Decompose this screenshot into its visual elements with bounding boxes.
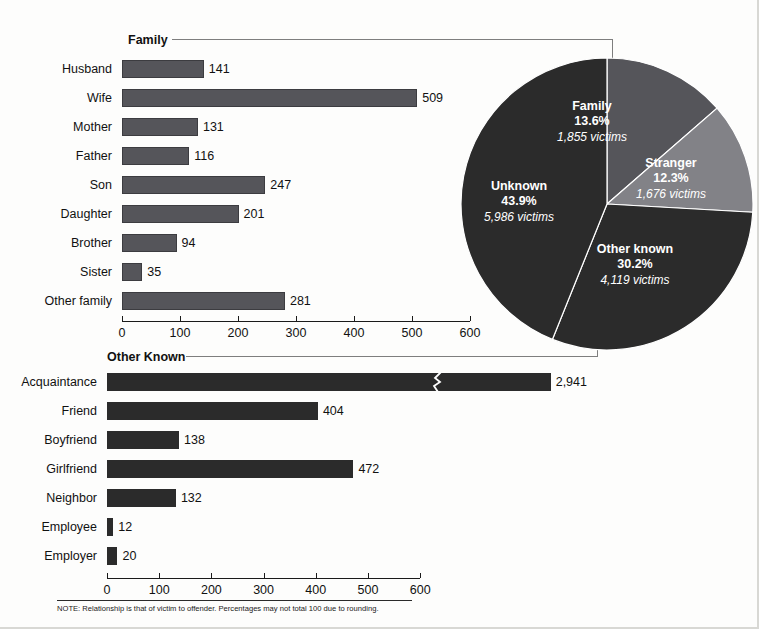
x-axis-line [122,321,470,322]
x-axis-tick-label: 400 [334,326,374,340]
bar [107,547,117,565]
pie-label-family-percent: 13.6% [537,114,647,129]
bar-row-label: Employee [0,514,97,540]
footer-rule [57,600,412,601]
bar [122,234,177,252]
x-axis-tick-label: 200 [218,326,258,340]
family-connector-horizontal [172,39,612,40]
bar [122,292,285,310]
other-known-bar-chart: Acquaintance2,941Friend404Boyfriend138Gi… [0,365,500,580]
bar-value-label: 404 [323,398,344,424]
family-bar-chart: Husband141Wife509Mother131Father116Son24… [0,50,500,330]
bar [122,60,204,78]
pie-label-other-known-name: Other known [570,242,700,257]
pie-label-other-known-percent: 30.2% [570,257,700,272]
other-known-panel-title: Other Known [107,350,185,364]
bar [107,373,551,391]
pie-label-stranger-name: Stranger [608,156,734,171]
x-axis-tick-label: 100 [139,583,179,597]
bar-row: Employee12 [0,514,759,540]
bar-row-label: Girlfriend [0,456,97,482]
x-axis-tick-label: 400 [296,583,336,597]
bar-row-label: Neighbor [0,485,97,511]
bar-row: Boyfriend138 [0,427,759,453]
x-axis-tick [368,573,369,578]
pie-label-stranger-percent: 12.3% [608,171,734,186]
x-axis-tick-label: 100 [160,326,200,340]
x-axis-tick-label: 0 [102,326,142,340]
bar [107,518,113,536]
x-axis-tick-label: 500 [392,326,432,340]
other-known-connector-horizontal [186,356,597,357]
bar-row-label: Acquaintance [0,369,97,395]
x-axis-tick [420,573,421,578]
bar-row: Neighbor132 [0,485,759,511]
x-axis-tick-label: 300 [276,326,316,340]
bar-value-label: 141 [209,56,230,82]
bar-row-label: Father [0,143,112,169]
x-axis-tick [264,573,265,578]
pie-label-unknown-percent: 43.9% [454,194,584,209]
bar [122,147,189,165]
bar-value-label: 116 [194,143,214,169]
bar-value-label: 247 [270,172,291,198]
bar-row-label: Wife [0,85,112,111]
x-axis-tick-label: 0 [87,583,127,597]
relationship-pie-chart: Family 13.6% 1,855 victims Stranger 12.3… [460,57,754,351]
bar [122,205,239,223]
bar-value-label: 35 [147,259,161,285]
bar-row: Acquaintance2,941 [0,369,759,395]
x-axis-tick [211,573,212,578]
x-axis-tick [122,316,123,321]
bar-value-label: 509 [422,85,443,111]
relationship-figure: Family Husband141Wife509Mother131Father1… [0,0,759,629]
bar [107,489,176,507]
bar [107,460,353,478]
pie-label-family: Family 13.6% 1,855 victims [537,99,647,144]
bar-value-label: 472 [358,456,379,482]
bar [122,118,198,136]
x-axis-tick-label: 600 [400,583,440,597]
bar-value-label: 2,941 [556,369,587,395]
x-axis-tick [107,573,108,578]
x-axis-line [107,578,420,579]
x-axis-tick [316,573,317,578]
bar-row-label: Husband [0,56,112,82]
bar-value-label: 20 [122,543,136,569]
pie-label-unknown: Unknown 43.9% 5,986 victims [454,179,584,224]
axis-break-zigzag-icon [431,372,445,392]
pie-label-family-victims: 1,855 victims [537,130,647,145]
footer-note: NOTE: Relationship is that of victim to … [57,604,379,613]
bar [122,176,265,194]
bar-row: Friend404 [0,398,759,424]
x-axis-tick-label: 200 [191,583,231,597]
family-panel-title: Family [128,33,168,47]
pie-label-family-name: Family [537,99,647,114]
bar-row-label: Friend [0,398,97,424]
bar-row-label: Employer [0,543,97,569]
bar [107,431,179,449]
bar-value-label: 281 [290,288,311,314]
bar [122,89,417,107]
x-axis-tick [159,573,160,578]
pie-label-other-known-victims: 4,119 victims [570,273,700,288]
x-axis-tick [412,316,413,321]
pie-label-unknown-name: Unknown [454,179,584,194]
x-axis-tick-label: 500 [348,583,388,597]
bar-value-label: 132 [181,485,202,511]
pie-label-unknown-victims: 5,986 victims [454,210,584,225]
x-axis-tick-label: 300 [244,583,284,597]
bar-value-label: 94 [182,230,196,256]
pie-label-stranger: Stranger 12.3% 1,676 victims [608,156,734,201]
bar-row-label: Daughter [0,201,112,227]
pie-label-stranger-victims: 1,676 victims [608,187,734,202]
pie-label-other-known: Other known 30.2% 4,119 victims [570,242,700,287]
x-axis-tick [296,316,297,321]
bar-row-label: Sister [0,259,112,285]
bar-row: Employer20 [0,543,759,569]
bar-value-label: 201 [244,201,265,227]
bar-value-label: 131 [203,114,224,140]
x-axis-tick [354,316,355,321]
bar-row-label: Mother [0,114,112,140]
bar [107,402,318,420]
